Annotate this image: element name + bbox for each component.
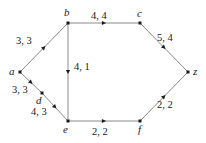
node-dot-b <box>67 22 70 25</box>
flow-network-figure: abcdefz 3, 34, 45, 44, 13, 34, 32, 22, 2 <box>0 0 206 143</box>
edge-direction-arrow-icon <box>102 21 106 25</box>
node-label-a: a <box>9 66 15 77</box>
edge-direction-arrow-icon <box>102 119 106 123</box>
edge-label-f-z: 2, 2 <box>157 100 173 111</box>
node-label-z: z <box>193 66 197 77</box>
edge-label-b-c: 4, 4 <box>91 11 107 22</box>
edge-arrowheads-group <box>28 21 165 123</box>
edge-label-b-e: 4, 1 <box>74 62 90 73</box>
node-label-f: f <box>138 124 141 135</box>
node-label-e: e <box>63 124 68 135</box>
node-dot-z <box>187 71 190 74</box>
node-dot-a <box>19 71 22 74</box>
edge-label-c-z: 5, 4 <box>157 33 173 44</box>
node-label-b: b <box>64 7 70 18</box>
edge-label-a-d: 3, 3 <box>12 85 28 96</box>
node-label-c: c <box>137 8 142 19</box>
edge-label-a-b: 3, 3 <box>16 36 32 47</box>
edge-direction-arrow-icon <box>66 70 70 74</box>
node-dot-c <box>139 22 142 25</box>
node-label-d: d <box>36 95 42 106</box>
edge-label-e-f: 2, 2 <box>92 127 108 138</box>
edge-label-d-e: 4, 3 <box>31 107 47 118</box>
